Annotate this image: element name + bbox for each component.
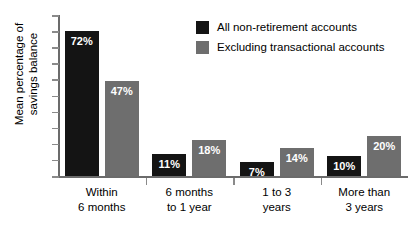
bar-value-label: 20% xyxy=(367,140,401,153)
x-axis-separator-tick xyxy=(321,178,323,185)
legend-swatch-icon xyxy=(196,41,209,54)
category-label-line: 6 months xyxy=(58,200,146,215)
x-axis-separator-tick xyxy=(146,178,148,185)
x-axis-category-label: More than3 years xyxy=(321,185,409,214)
category-label-line: 1 to 3 xyxy=(233,185,321,200)
bar-value-label: 47% xyxy=(105,85,139,98)
bar[interactable]: 20% xyxy=(367,136,401,176)
x-axis-category-label: Within6 months xyxy=(58,185,146,214)
bar[interactable]: 18% xyxy=(192,140,226,176)
legend-swatch-icon xyxy=(196,21,209,34)
x-axis-category-label: 6 monthsto 1 year xyxy=(146,185,234,214)
bar-value-label: 7% xyxy=(240,166,274,179)
legend-item[interactable]: Excluding transactional accounts xyxy=(196,37,385,57)
category-label-line: 6 months xyxy=(146,185,234,200)
legend-item[interactable]: All non-retirement accounts xyxy=(196,17,385,37)
x-axis-category-label: 1 to 3years xyxy=(233,185,321,214)
bar[interactable]: 14% xyxy=(280,148,314,176)
category-label-line: More than xyxy=(321,185,409,200)
y-axis-tick xyxy=(52,176,59,178)
category-label-line: years xyxy=(233,200,321,215)
category-label-line: 3 years xyxy=(321,200,409,215)
bar-group: 72%47% xyxy=(65,15,139,176)
legend-label: Excluding transactional accounts xyxy=(217,41,385,53)
bar[interactable]: 47% xyxy=(105,81,139,176)
bar[interactable]: 11% xyxy=(152,154,186,176)
legend-label: All non-retirement accounts xyxy=(217,21,357,33)
bar[interactable]: 10% xyxy=(327,156,361,176)
y-axis-title-line-2: savings balance xyxy=(26,33,40,115)
y-axis-title: Mean percentage of savings balance xyxy=(4,4,48,144)
legend: All non-retirement accountsExcluding tra… xyxy=(196,17,385,57)
y-axis-title-line-1: Mean percentage of xyxy=(12,23,26,125)
bar-value-label: 14% xyxy=(280,152,314,165)
bar-value-label: 10% xyxy=(327,160,361,173)
bar-value-label: 18% xyxy=(192,144,226,157)
category-label-line: Within xyxy=(58,185,146,200)
category-label-line: to 1 year xyxy=(146,200,234,215)
bar[interactable]: 7% xyxy=(240,162,274,176)
bar-value-label: 11% xyxy=(152,158,186,171)
bar-value-label: 72% xyxy=(65,35,99,48)
bar[interactable]: 72% xyxy=(65,31,99,176)
bar-chart: Mean percentage of savings balance 72%47… xyxy=(0,0,414,226)
x-axis-separator-tick xyxy=(233,178,235,185)
